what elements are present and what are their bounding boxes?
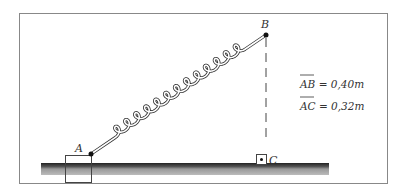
- value-ac: = 0,32m: [316, 100, 365, 112]
- svg-text:AB = 0,40m: AB = 0,40m: [299, 78, 364, 90]
- label-b: B: [260, 18, 269, 31]
- equation-ac: AC = 0,32m: [299, 97, 364, 112]
- point-b-dot: [264, 33, 269, 38]
- point-c-dot: [260, 158, 263, 161]
- label-c: C: [269, 154, 278, 167]
- segment-ab: AB: [299, 78, 316, 90]
- spring-diagram: A B C AB = 0,40m AC = 0,32m: [0, 0, 407, 193]
- segment-ac: AC: [299, 100, 316, 112]
- spring: [91, 35, 266, 154]
- point-a-dot: [89, 152, 94, 157]
- label-a: A: [74, 142, 83, 155]
- svg-text:AC = 0,32m: AC = 0,32m: [299, 100, 364, 112]
- diagram-frame: [20, 14, 388, 184]
- ground-surface: [41, 163, 329, 175]
- value-ab: = 0,40m: [315, 78, 364, 90]
- equation-ab: AB = 0,40m: [299, 75, 364, 90]
